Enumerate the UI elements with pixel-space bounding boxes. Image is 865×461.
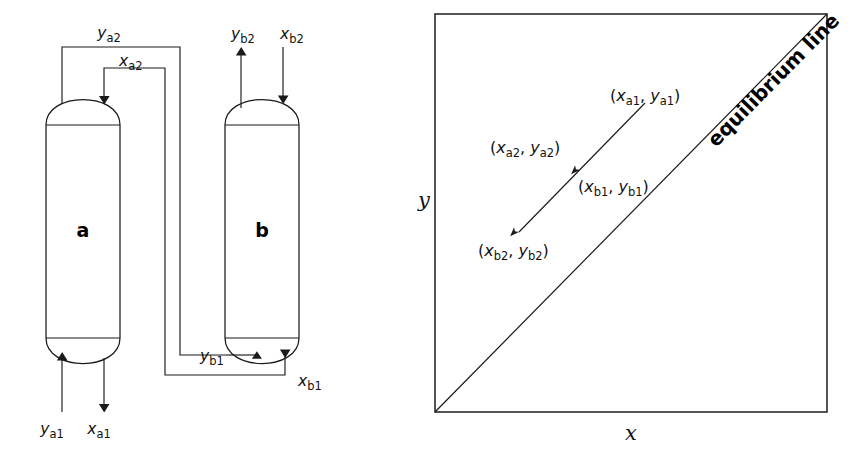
x-axis-label: x [625, 421, 637, 445]
column-a-label: a [77, 219, 90, 241]
figure-root: a b yb1 ya1 xa1 [0, 0, 865, 461]
column-b-label: b [255, 219, 269, 241]
column-b[interactable]: b [225, 100, 299, 364]
column-a[interactable]: a [46, 100, 120, 364]
y-axis-label: y [417, 188, 431, 212]
